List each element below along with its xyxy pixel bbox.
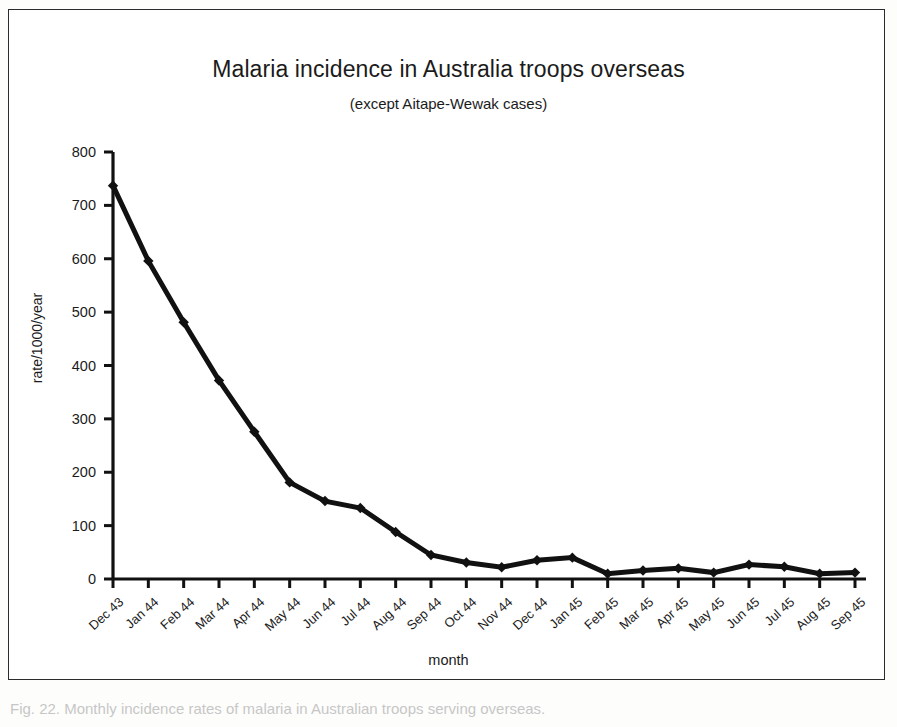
- y-axis-tick-label: 700: [52, 198, 96, 213]
- chart-subtitle: (except Aitape-Wewak cases): [0, 95, 897, 112]
- y-axis-tick-label: 800: [52, 145, 96, 160]
- y-axis-tick-label: 400: [52, 359, 96, 374]
- chart-title: Malaria incidence in Australia troops ov…: [0, 56, 897, 83]
- x-axis-title: month: [0, 652, 897, 668]
- y-axis-tick-label: 0: [52, 572, 96, 587]
- y-axis-tick-label: 200: [52, 465, 96, 480]
- y-axis-tick-label: 300: [52, 412, 96, 427]
- y-axis-tick-label: 100: [52, 519, 96, 534]
- y-axis-title: rate/1000/year: [29, 273, 45, 403]
- y-axis-tick-label: 500: [52, 305, 96, 320]
- scanned-page: Malaria incidence in Australia troops ov…: [0, 0, 897, 727]
- figure-caption: Fig. 22. Monthly incidence rates of mala…: [10, 700, 710, 724]
- y-axis-tick-label: 600: [52, 252, 96, 267]
